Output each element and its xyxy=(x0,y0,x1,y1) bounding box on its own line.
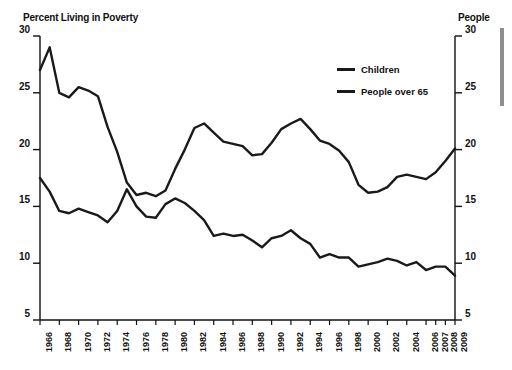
legend-label: Children xyxy=(361,64,400,75)
legend-swatch-icon xyxy=(337,90,355,93)
y-tick-label-right: 30 xyxy=(465,24,485,35)
x-tick-label: 1992 xyxy=(295,332,305,352)
x-tick-label: 1990 xyxy=(276,332,286,352)
poverty-line-chart: Percent Living in Poverty People 5101520… xyxy=(0,0,512,370)
x-tick-label: 1978 xyxy=(160,332,170,352)
x-tick-label: 2008 xyxy=(449,332,459,352)
legend-item-children: Children xyxy=(337,64,400,75)
x-tick-label: 1988 xyxy=(256,332,266,352)
y-tick-label-right: 5 xyxy=(465,308,485,319)
x-tick-label: 1968 xyxy=(63,332,73,352)
y-tick-label-right: 20 xyxy=(465,138,485,149)
y-tick-label-left: 30 xyxy=(10,24,30,35)
x-tick-label: 1998 xyxy=(353,332,363,352)
legend-item-people-over-65: People over 65 xyxy=(337,86,428,97)
x-tick-label: 1984 xyxy=(218,332,228,352)
x-tick-label: 2004 xyxy=(411,332,421,352)
y-tick-label-right: 10 xyxy=(465,251,485,262)
x-tick-label: 1970 xyxy=(83,332,93,352)
x-tick-label: 2009 xyxy=(459,332,469,352)
x-tick-label: 1994 xyxy=(314,332,324,352)
x-tick-label: 1980 xyxy=(179,332,189,352)
y-tick-label-left: 20 xyxy=(10,138,30,149)
plot-area xyxy=(0,0,512,370)
x-tick-label: 1976 xyxy=(141,332,151,352)
y-tick-label-right: 25 xyxy=(465,81,485,92)
x-tick-label: 1986 xyxy=(237,332,247,352)
y-tick-label-left: 15 xyxy=(10,194,30,205)
legend-label: People over 65 xyxy=(361,86,428,97)
y-tick-label-left: 10 xyxy=(10,251,30,262)
x-tick-label: 1972 xyxy=(102,332,112,352)
series-line-people-over-65 xyxy=(40,178,455,276)
x-tick-label: 2002 xyxy=(391,332,401,352)
x-tick-label: 1996 xyxy=(334,332,344,352)
y-tick-label-left: 25 xyxy=(10,81,30,92)
x-tick-label: 2000 xyxy=(372,332,382,352)
x-tick-label: 1966 xyxy=(44,332,54,352)
legend-swatch-icon xyxy=(337,68,355,71)
y-tick-label-left: 5 xyxy=(10,308,30,319)
right-edge-marker xyxy=(500,28,504,106)
x-tick-label: 2006 xyxy=(430,332,440,352)
x-tick-label: 1974 xyxy=(121,332,131,352)
y-tick-label-right: 15 xyxy=(465,194,485,205)
x-tick-label: 1982 xyxy=(198,332,208,352)
